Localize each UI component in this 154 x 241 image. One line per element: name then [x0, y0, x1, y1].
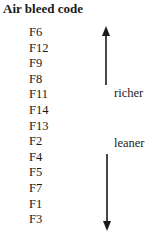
list-item: F5 — [29, 165, 48, 181]
list-item: F2 — [29, 134, 48, 150]
table-title: Air bleed code — [3, 1, 83, 17]
list-item: F14 — [29, 103, 48, 119]
arrow-up-icon — [100, 26, 112, 86]
list-item: F3 — [29, 212, 48, 228]
arrow-down-icon — [101, 154, 113, 232]
list-item: F12 — [29, 41, 48, 57]
list-item: F13 — [29, 119, 48, 135]
list-item: F11 — [29, 87, 48, 103]
list-item: F1 — [29, 197, 48, 213]
list-item: F4 — [29, 150, 48, 166]
leaner-label: leaner — [114, 136, 145, 150]
air-bleed-code-list: F6 F12 F9 F8 F11 F14 F13 F2 F4 F5 F7 F1 … — [29, 25, 48, 228]
richer-label: richer — [114, 86, 143, 100]
list-item: F6 — [29, 25, 48, 41]
list-item: F7 — [29, 181, 48, 197]
list-item: F9 — [29, 56, 48, 72]
list-item: F8 — [29, 72, 48, 88]
